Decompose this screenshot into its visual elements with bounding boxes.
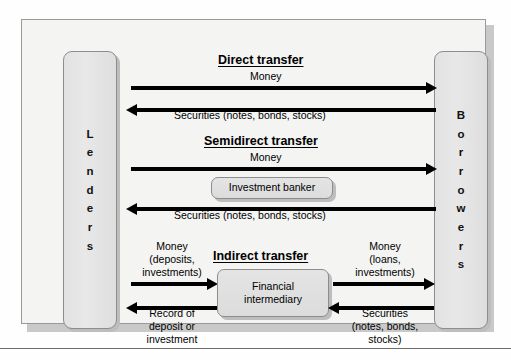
arrow-shaft xyxy=(131,167,427,171)
indirect-left-money-label: Money (deposits, investments) xyxy=(132,240,212,278)
arrow-head-right xyxy=(426,163,437,175)
borrowers-letter: r xyxy=(459,237,463,256)
direct-transfer-heading: Direct transfer xyxy=(218,53,303,67)
lenders-letter: r xyxy=(88,218,92,237)
label-line: Record of xyxy=(132,307,212,320)
arrow-shaft xyxy=(333,282,425,286)
label-line: Money xyxy=(342,240,428,253)
arrow-head-left xyxy=(126,203,137,215)
borrowers-letter: e xyxy=(458,218,464,237)
arrow-head-left xyxy=(328,302,339,314)
borrowers-letter: s xyxy=(458,255,464,274)
arrow-shaft xyxy=(131,282,208,286)
label-line: Securities xyxy=(340,307,430,320)
direct-money-label: Money xyxy=(250,70,282,83)
lenders-box[interactable]: L e n d e r s xyxy=(63,51,117,329)
investment-banker-label: Investment banker xyxy=(229,181,315,194)
arrow-head-left xyxy=(126,104,137,116)
semidirect-securities-label: Securities (notes, bonds, stocks) xyxy=(174,209,326,222)
arrow-shaft xyxy=(131,86,427,90)
lenders-letter: e xyxy=(87,199,93,218)
figure-frame: L e n d e r s B o r r o w e r s Direct t… xyxy=(21,19,486,324)
label-line: investments) xyxy=(132,266,212,279)
borrowers-letter: r xyxy=(459,162,463,181)
label-line: (loans, xyxy=(342,253,428,266)
indirect-right-securities-label: Securities (notes, bonds, stocks) xyxy=(340,307,430,345)
label-line: (deposits, xyxy=(132,253,212,266)
arrow-head-right xyxy=(424,278,435,290)
semidirect-money-label: Money xyxy=(250,151,282,164)
indirect-transfer-heading: Indirect transfer xyxy=(213,249,308,263)
lenders-letter: e xyxy=(87,143,93,162)
borrowers-letter: r xyxy=(459,143,463,162)
scanned-page: L e n d e r s B o r r o w e r s Direct t… xyxy=(0,0,511,360)
page-divider-rule xyxy=(0,348,511,349)
label-line: stocks) xyxy=(340,333,430,346)
indirect-right-money-label: Money (loans, investments) xyxy=(342,240,428,278)
arrow-head-right xyxy=(426,82,437,94)
investment-banker-box[interactable]: Investment banker xyxy=(211,177,333,199)
direct-securities-label: Securities (notes, bonds, stocks) xyxy=(174,109,326,122)
lenders-letter: d xyxy=(86,181,93,200)
financial-intermediary-box[interactable]: Financial intermediary xyxy=(217,269,329,317)
lenders-letter: L xyxy=(86,125,93,144)
lenders-letter: s xyxy=(87,237,93,256)
lenders-letter: n xyxy=(86,162,93,181)
semidirect-transfer-heading: Semidirect transfer xyxy=(204,134,318,148)
borrowers-letter: o xyxy=(457,181,464,200)
borrowers-letter: w xyxy=(457,199,466,218)
financial-intermediary-label-line1: Financial xyxy=(244,280,302,293)
label-line: investment xyxy=(132,333,212,346)
borrowers-box[interactable]: B o r r o w e r s xyxy=(434,51,488,329)
borrowers-letter: o xyxy=(457,125,464,144)
financial-intermediary-label-line2: intermediary xyxy=(244,293,302,306)
label-line: investments) xyxy=(342,266,428,279)
label-line: Money xyxy=(132,240,212,253)
label-line: deposit or xyxy=(132,320,212,333)
indirect-left-record-label: Record of deposit or investment xyxy=(132,307,212,345)
label-line: (notes, bonds, xyxy=(340,320,430,333)
borrowers-letter: B xyxy=(457,106,465,125)
